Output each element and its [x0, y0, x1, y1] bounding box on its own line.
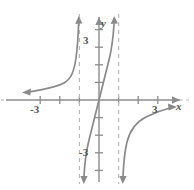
plot-canvas [0, 0, 194, 190]
x-axis-label: x [176, 101, 182, 112]
curve-middle-branch-down-arrowhead [80, 176, 87, 184]
curve-right-branch-down-arrowhead [119, 176, 126, 184]
y-tick-label-negative-3: -3 [79, 147, 88, 158]
curve-right-branch [123, 108, 170, 176]
curve-left-branch-left-arrowhead [22, 89, 31, 96]
graph-figure: -3 3 3 -3 x y [0, 0, 194, 190]
curve-middle-branch-up-arrowhead [111, 16, 118, 24]
y-tick-label-positive-3: 3 [83, 35, 89, 46]
curve-left-branch-up-arrowhead [75, 16, 82, 24]
x-tick-label-negative-3: -3 [30, 104, 39, 115]
y-axis-label: y [101, 18, 106, 29]
curve-left-branch [29, 24, 79, 92]
x-tick-label-positive-3: 3 [152, 104, 158, 115]
